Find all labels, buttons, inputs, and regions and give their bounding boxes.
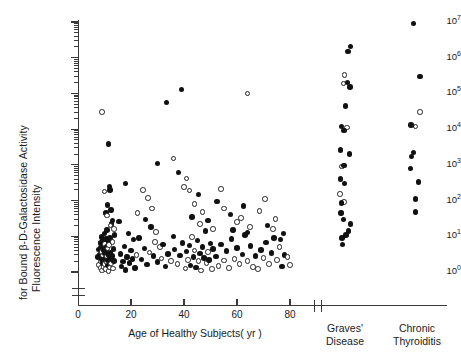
data-point xyxy=(189,234,195,240)
x-tick-major xyxy=(236,299,237,306)
data-point xyxy=(100,260,105,265)
data-point xyxy=(247,224,253,230)
data-point xyxy=(100,253,106,259)
data-point xyxy=(230,227,235,232)
data-point xyxy=(136,235,141,240)
data-point xyxy=(106,242,112,248)
y-tick-minor xyxy=(74,71,79,72)
data-point xyxy=(175,261,181,267)
y-tick-major xyxy=(71,93,79,94)
y-tick-minor xyxy=(74,219,79,220)
data-point xyxy=(132,265,137,270)
data-point xyxy=(99,109,105,115)
group-label-chronic: Chronic Thyroiditis xyxy=(374,322,460,347)
data-point xyxy=(348,221,353,226)
data-point xyxy=(338,147,343,152)
data-point xyxy=(197,221,203,227)
y-tick-minor xyxy=(74,101,79,102)
data-point xyxy=(413,209,418,214)
data-point xyxy=(281,231,286,236)
data-point xyxy=(221,206,227,212)
data-point xyxy=(126,231,131,236)
data-point xyxy=(411,150,416,155)
data-point xyxy=(123,181,128,186)
data-point xyxy=(416,179,421,184)
y-tick-major xyxy=(71,57,79,58)
y-tick-minor xyxy=(74,112,79,113)
data-point xyxy=(269,250,274,255)
data-point xyxy=(128,248,133,253)
data-point xyxy=(102,241,108,247)
data-point xyxy=(187,188,193,194)
data-point xyxy=(224,248,229,253)
data-point xyxy=(208,241,213,246)
data-point xyxy=(196,192,201,197)
data-point xyxy=(229,236,234,241)
data-point xyxy=(347,151,352,156)
data-point xyxy=(232,256,238,262)
y-tick-major xyxy=(71,21,79,22)
data-point xyxy=(98,265,104,271)
data-point xyxy=(163,264,168,269)
data-point xyxy=(278,237,283,242)
data-point xyxy=(339,235,344,240)
data-point xyxy=(341,163,346,168)
y-tick-minor xyxy=(74,241,79,242)
y-tick-minor xyxy=(74,59,79,60)
data-point xyxy=(204,260,210,266)
y-tick-label: 101 xyxy=(421,230,461,240)
data-point xyxy=(155,259,160,264)
data-point xyxy=(341,199,347,205)
y-tick-major xyxy=(71,129,79,130)
data-point xyxy=(206,257,211,262)
data-point xyxy=(343,232,348,237)
x-tick-major xyxy=(289,299,290,306)
x-tick-major xyxy=(130,299,131,306)
y-tick-major xyxy=(71,236,79,237)
data-point xyxy=(119,264,124,269)
y-tick-minor xyxy=(74,211,79,212)
y-tick-minor xyxy=(74,143,79,144)
y-axis-title: Fluorescence Intensity for Bound β-D-Gal… xyxy=(0,0,46,300)
data-point xyxy=(179,87,184,92)
y-axis-break-icon xyxy=(72,288,85,297)
y-tick-minor xyxy=(74,239,79,240)
data-point xyxy=(274,257,280,263)
data-point xyxy=(104,244,109,249)
data-point xyxy=(109,253,114,258)
data-point xyxy=(201,255,206,260)
data-point xyxy=(345,49,350,54)
data-point xyxy=(105,263,110,268)
data-point xyxy=(100,238,105,243)
data-point xyxy=(245,230,250,235)
data-point xyxy=(108,223,114,229)
data-point xyxy=(210,246,215,251)
group-label-chronic-line2: Thyroiditis xyxy=(374,335,460,348)
x-axis-title: Age of Healthy Subjects( yr ) xyxy=(78,327,312,339)
data-point xyxy=(111,246,116,251)
data-point xyxy=(238,215,244,221)
data-point xyxy=(242,232,247,237)
y-tick-minor xyxy=(74,82,79,83)
y-tick-minor xyxy=(74,202,79,203)
data-point xyxy=(104,213,110,219)
data-point xyxy=(193,265,198,270)
data-point xyxy=(261,255,267,261)
data-point xyxy=(177,253,182,258)
y-tick-minor xyxy=(74,134,79,135)
x-tick-label: 40 xyxy=(169,309,199,320)
data-point xyxy=(98,240,103,245)
y-tick-minor xyxy=(74,214,79,215)
data-point xyxy=(282,252,287,257)
y-tick-minor xyxy=(74,183,79,184)
y-tick-minor xyxy=(74,168,79,169)
data-point xyxy=(347,84,352,89)
y-axis-title-line1: Fluorescence Intensity xyxy=(30,185,42,292)
data-point xyxy=(134,252,140,258)
y-tick-label: 105 xyxy=(421,87,461,97)
y-tick-minor xyxy=(74,225,79,226)
data-point xyxy=(160,242,165,247)
data-point xyxy=(106,252,111,257)
y-tick-label: 103 xyxy=(421,159,461,169)
x-tick-label: 0 xyxy=(63,309,93,320)
